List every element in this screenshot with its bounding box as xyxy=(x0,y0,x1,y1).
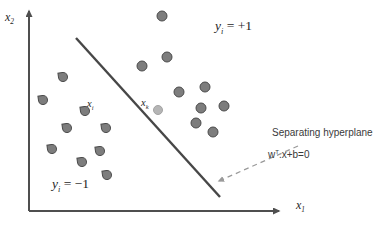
data-point-positive xyxy=(208,127,219,138)
data-point-negative xyxy=(46,143,57,154)
data-point-positive xyxy=(174,87,185,98)
hyperplane-formula: wT.x+b=0 xyxy=(268,149,310,160)
point-xk-label: xk xyxy=(141,98,149,111)
data-point-negative xyxy=(94,145,105,156)
data-point-positive xyxy=(219,101,230,112)
svm-separating-hyperplane-diagram: x2 x1 yi = +1 yi = −1 xi xk Separating h… xyxy=(0,0,375,225)
positive-label-value: = +1 xyxy=(223,18,252,33)
negative-region-label: yi = −1 xyxy=(52,177,89,194)
formula-rest: .x+b=0 xyxy=(279,149,310,160)
data-point-negative xyxy=(76,156,87,167)
negative-label-value: = −1 xyxy=(60,176,89,191)
data-point-xk xyxy=(153,105,163,115)
data-point-positive xyxy=(157,11,168,22)
x-axis-label: x1 xyxy=(296,199,305,214)
separating-hyperplane-caption: Separating hyperplane xyxy=(272,128,373,138)
data-point-positive xyxy=(137,61,148,72)
y-axis-label-sub: 2 xyxy=(10,17,14,26)
positive-region-label: yi = +1 xyxy=(215,19,252,36)
data-point-positive xyxy=(200,82,211,93)
point-xi-label: xi xyxy=(87,99,93,112)
y-axis-label: x2 xyxy=(5,11,14,26)
point-xi-label-sub: i xyxy=(92,104,94,111)
data-point-negative xyxy=(101,169,112,180)
point-xk-label-sub: k xyxy=(146,103,149,110)
data-point-positive xyxy=(191,118,202,129)
data-point-negative xyxy=(57,71,68,82)
data-point-negative xyxy=(37,94,48,105)
x-axis-label-sub: 1 xyxy=(301,205,305,214)
data-point-positive xyxy=(196,103,207,114)
data-point-negative xyxy=(61,122,72,133)
data-point-negative xyxy=(100,122,111,133)
data-point-positive xyxy=(162,52,173,63)
